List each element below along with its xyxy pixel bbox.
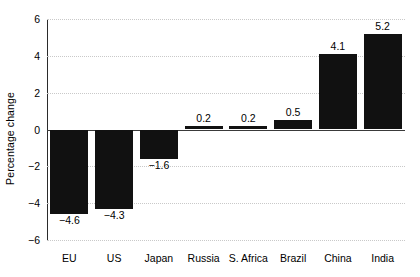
y-axis-tick-label: −4 [18,198,40,208]
bar-value-label: 0.5 [266,107,320,118]
bar [319,54,357,130]
bar-value-label: −4.3 [87,210,141,221]
bar [50,130,88,215]
y-axis-tick-label: 2 [18,88,40,98]
bar [229,126,267,130]
bar [140,130,178,159]
bar [95,130,133,209]
gridline [47,240,405,241]
bar-chart: Percentage change 6420−2−4−6 −4.6−4.3−1.… [0,0,420,277]
y-axis-tick-label: 6 [18,14,40,24]
y-axis-tick-label: −6 [18,235,40,245]
bar-value-label: 4.1 [311,41,365,52]
bar [274,120,312,129]
bar [364,34,402,130]
bar [185,126,223,130]
x-axis-tick-label: India [348,252,418,264]
y-axis-tick-label: 4 [18,51,40,61]
plot-area: −4.6−4.3−1.60.20.20.54.15.2 [47,19,405,240]
bar-value-label: −1.6 [132,160,186,171]
y-axis-tick-label: 0 [18,125,40,135]
y-axis-tick-label: −2 [18,161,40,171]
bar-value-label: 5.2 [356,21,410,32]
y-axis-tick-labels: 6420−2−4−6 [16,0,40,277]
gridline [47,19,405,20]
